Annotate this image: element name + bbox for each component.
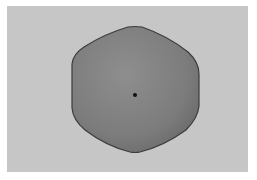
center-dot bbox=[133, 93, 137, 97]
scene bbox=[0, 0, 257, 180]
hexagon-shape bbox=[72, 27, 199, 153]
